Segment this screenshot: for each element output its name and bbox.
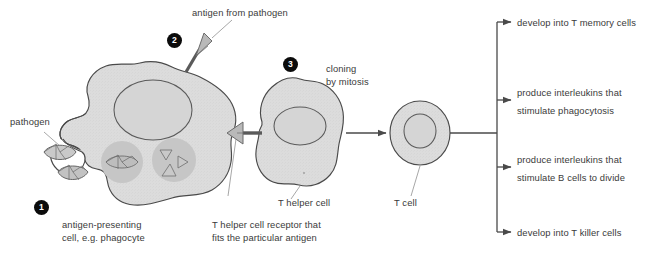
diagram-canvas: pathogen antigen from pathogen antigen-p…: [0, 0, 655, 258]
step-marker-3: 3: [283, 57, 298, 72]
step-marker-1: 1: [34, 200, 49, 215]
t-helper-nucleus: [274, 107, 326, 145]
label-antigen-presenting-cell-line1: antigen-presenting: [62, 218, 141, 231]
leader-pathogen: [44, 132, 60, 146]
label-t-cell: T cell: [394, 196, 417, 209]
outcome-b-cells-line1: produce interleukins that: [517, 153, 622, 166]
antigen-triangle: [196, 33, 212, 56]
outcome-phagocytosis-line1: produce interleukins that: [517, 86, 622, 99]
t-cell-nucleus: [404, 114, 436, 148]
phagocyte-nucleus: [114, 80, 192, 140]
outcome-branch-lines: [450, 22, 511, 232]
label-cloning-line1: cloning: [326, 62, 356, 75]
t-helper-cell: [256, 78, 344, 186]
label-pathogen: pathogen: [10, 115, 50, 128]
outcome-phagocytosis-line2: stimulate phagocytosis: [517, 104, 614, 117]
label-receptor-line1: T helper cell receptor that: [212, 218, 321, 231]
outcome-memory-line1: develop into T memory cells: [517, 16, 636, 29]
label-t-helper-cell: T helper cell: [278, 196, 330, 209]
outcome-b-cells-line2: stimulate B cells to divide: [517, 171, 625, 184]
label-antigen-presenting-cell-line2: cell, e.g. phagocyte: [62, 231, 145, 244]
t-cell: [390, 101, 450, 165]
label-antigen-from-pathogen: antigen from pathogen: [192, 6, 288, 19]
outcome-killer-line1: develop into T killer cells: [517, 226, 622, 239]
antigen-presenting-cell: [50, 62, 236, 206]
leader-antigen: [212, 20, 232, 38]
step-marker-2: 2: [167, 33, 182, 48]
leader-t-cell: [411, 166, 420, 196]
label-cloning-line2: by mitosis: [326, 75, 369, 88]
antigen-presented-on-surface: [186, 33, 212, 72]
label-receptor-line2: fits the particular antigen: [212, 231, 317, 244]
